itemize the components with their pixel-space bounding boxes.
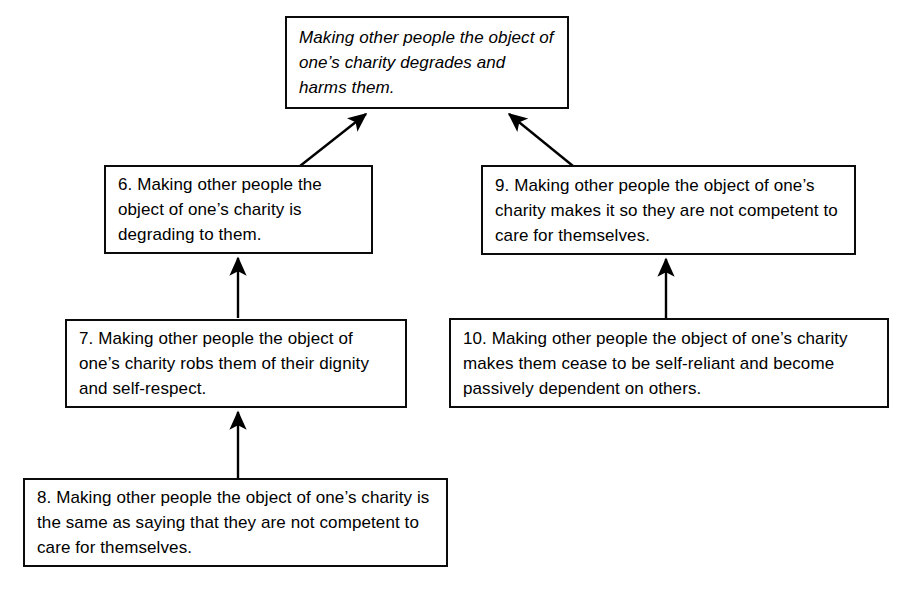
node-9-text: 9. Making other people the object of one… (495, 173, 842, 248)
node-7-text: 7. Making other people the object of one… (79, 326, 393, 401)
edge-9-to-conclusion-arrow (509, 114, 573, 166)
node-10-text: 10. Making other people the object of on… (463, 326, 875, 401)
node-6-text: 6. Making other people the object of one… (118, 172, 359, 247)
node-7: 7. Making other people the object of one… (65, 319, 407, 408)
node-conclusion-text: Making other people the object of one’s … (299, 25, 555, 100)
node-8-text: 8. Making other people the object of one… (37, 485, 434, 560)
argument-diagram: Making other people the object of one’s … (0, 0, 911, 593)
node-conclusion: Making other people the object of one’s … (285, 16, 569, 109)
edge-6-to-conclusion-arrow (300, 114, 366, 166)
node-6: 6. Making other people the object of one… (104, 165, 373, 254)
node-8: 8. Making other people the object of one… (23, 478, 448, 567)
node-10: 10. Making other people the object of on… (449, 318, 889, 408)
node-9: 9. Making other people the object of one… (481, 165, 856, 255)
